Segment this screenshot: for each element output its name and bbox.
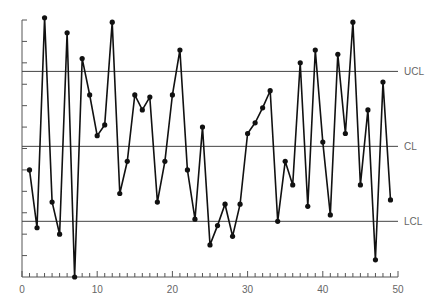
data-point — [207, 242, 212, 247]
data-point — [275, 219, 280, 224]
data-point — [200, 124, 205, 129]
data-point — [185, 167, 190, 172]
data-point — [388, 197, 393, 202]
data-point — [177, 47, 182, 52]
data-point — [42, 15, 47, 20]
data-point — [27, 167, 32, 172]
data-point — [290, 182, 295, 187]
data-point — [237, 202, 242, 207]
data-point — [305, 204, 310, 209]
data-point — [253, 120, 258, 125]
lcl-label: LCL — [404, 216, 423, 227]
data-point — [380, 80, 385, 85]
y-axis — [22, 20, 27, 277]
data-point — [87, 92, 92, 97]
data-point — [335, 52, 340, 57]
data-point — [110, 20, 115, 25]
data-point — [117, 191, 122, 196]
data-point — [298, 60, 303, 65]
data-point — [34, 225, 39, 230]
control-line-labels: UCL CL LCL — [404, 66, 424, 227]
data-point — [260, 105, 265, 110]
control-chart: 01020304050 UCL CL LCL — [0, 0, 441, 308]
data-point — [313, 47, 318, 52]
data-point — [320, 139, 325, 144]
data-point — [192, 217, 197, 222]
x-axis: 01020304050 — [19, 271, 404, 295]
data-point — [283, 159, 288, 164]
data-point — [343, 131, 348, 136]
ucl-label: UCL — [404, 66, 424, 77]
data-series — [27, 15, 393, 279]
data-point — [80, 56, 85, 61]
data-point — [140, 107, 145, 112]
data-point — [125, 159, 130, 164]
data-point — [147, 95, 152, 100]
cl-label: CL — [404, 141, 417, 152]
data-point — [215, 223, 220, 228]
data-point — [155, 199, 160, 204]
data-point — [268, 88, 273, 93]
data-point — [358, 182, 363, 187]
x-tick-label: 50 — [392, 284, 404, 295]
x-tick-label: 40 — [317, 284, 329, 295]
data-point — [95, 133, 100, 138]
data-point — [328, 212, 333, 217]
data-point — [170, 92, 175, 97]
data-point — [162, 159, 167, 164]
data-point — [230, 234, 235, 239]
data-point — [49, 199, 54, 204]
data-point — [65, 30, 70, 35]
data-point — [132, 92, 137, 97]
data-point — [245, 131, 250, 136]
x-tick-label: 20 — [167, 284, 179, 295]
x-tick-label: 10 — [92, 284, 104, 295]
data-point — [365, 107, 370, 112]
data-point — [373, 257, 378, 262]
data-point — [350, 20, 355, 25]
x-tick-label: 0 — [19, 284, 25, 295]
data-point — [57, 232, 62, 237]
data-point — [222, 202, 227, 207]
x-tick-label: 30 — [242, 284, 254, 295]
data-point — [102, 122, 107, 127]
data-point — [72, 274, 77, 279]
